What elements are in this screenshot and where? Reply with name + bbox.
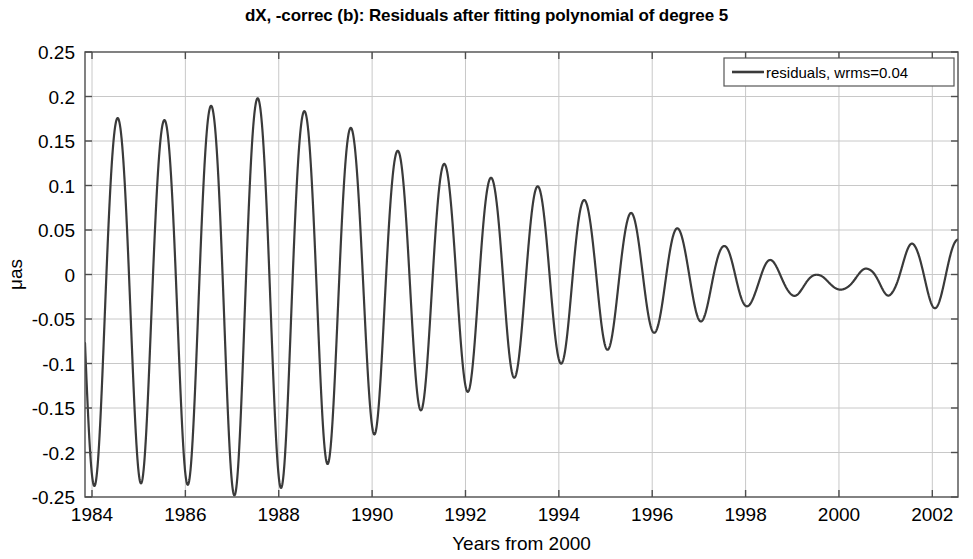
figure-panel: dX, -correc (b): Residuals after fitting… bbox=[0, 0, 973, 559]
y-tick-label: -0.15 bbox=[32, 398, 75, 419]
x-tick-labels: 1984198619881990199219941996199820002002 bbox=[71, 504, 954, 525]
x-tick-label: 1996 bbox=[631, 504, 673, 525]
y-tick-label: 0.05 bbox=[38, 220, 75, 241]
y-axis-title: μas bbox=[5, 259, 26, 290]
chart-legend: residuals, wrms=0.04 bbox=[724, 58, 954, 86]
y-tick-label: -0.05 bbox=[32, 309, 75, 330]
x-tick-label: 2000 bbox=[818, 504, 860, 525]
x-tick-label: 1988 bbox=[258, 504, 300, 525]
x-tick-label: 1994 bbox=[538, 504, 581, 525]
x-tick-label: 1990 bbox=[351, 504, 393, 525]
legend-label-residuals: residuals, wrms=0.04 bbox=[766, 64, 908, 81]
y-tick-label: -0.1 bbox=[42, 354, 75, 375]
y-tick-labels: -0.25-0.2-0.15-0.1-0.0500.050.10.150.20.… bbox=[32, 42, 75, 508]
y-tick-label: -0.2 bbox=[42, 443, 75, 464]
data-line-residuals bbox=[85, 98, 958, 495]
y-tick-label: 0.25 bbox=[38, 42, 75, 63]
x-tick-label: 1998 bbox=[724, 504, 766, 525]
y-tick-label: -0.25 bbox=[32, 487, 75, 508]
y-tick-label: 0.2 bbox=[49, 87, 75, 108]
series-layer bbox=[85, 98, 958, 495]
y-tick-label: 0.15 bbox=[38, 131, 75, 152]
x-tick-label: 1984 bbox=[71, 504, 114, 525]
y-tick-label: 0.1 bbox=[49, 176, 75, 197]
x-axis-title: Years from 2000 bbox=[452, 533, 591, 554]
x-tick-label: 2002 bbox=[911, 504, 953, 525]
x-tick-label: 1986 bbox=[164, 504, 206, 525]
chart-plot: 1984198619881990199219941996199820002002… bbox=[0, 0, 973, 559]
x-tick-label: 1992 bbox=[444, 504, 486, 525]
y-tick-label: 0 bbox=[64, 265, 75, 286]
gridlines bbox=[85, 52, 958, 497]
